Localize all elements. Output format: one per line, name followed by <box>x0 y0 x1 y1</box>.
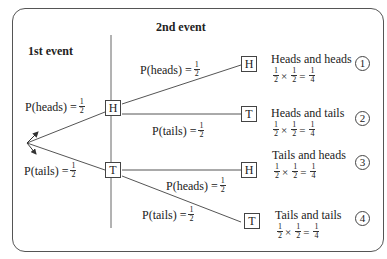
outcome-number-badge-2: 2 <box>355 111 370 126</box>
second-event-heading: 2nd event <box>156 20 206 35</box>
first-heads-probability: P(heads) = 12 <box>25 98 85 115</box>
branch-origin-heads <box>27 112 105 143</box>
second-heads-probability-1: P(heads) = 12 <box>140 61 200 78</box>
outcome-1: Heads and heads 12 × 12 = 14 <box>271 53 352 84</box>
outcome-calculation: 12 × 12 = 14 <box>271 121 344 138</box>
outcome-calculation: 12 × 12 = 14 <box>275 223 341 240</box>
outcome-calculation: 12 × 12 = 14 <box>271 67 352 84</box>
second-heads-probability-2: P(heads) = 12 <box>166 177 226 194</box>
first-node-tails: T <box>105 162 121 178</box>
outcome-number-badge-3: 3 <box>355 155 370 170</box>
outcome-2: Heads and tails 12 × 12 = 14 <box>271 107 344 138</box>
second-node-tails-1: T <box>241 106 257 122</box>
outcome-calculation: 12 × 12 = 14 <box>272 163 346 180</box>
second-node-heads-1: H <box>241 56 257 72</box>
first-tails-probability: P(tails) = 12 <box>24 162 76 179</box>
second-tails-probability-1: P(tails) = 12 <box>152 122 204 139</box>
second-node-heads-2: H <box>241 162 257 178</box>
fraction: 12 <box>79 98 85 115</box>
first-node-heads: H <box>105 100 121 116</box>
outcome-number-badge-1: 1 <box>355 56 370 71</box>
outcome-4: Tails and tails 12 × 12 = 14 <box>275 209 341 240</box>
outcome-3: Tails and heads 12 × 12 = 14 <box>272 149 346 180</box>
second-node-tails-2: T <box>244 213 260 229</box>
outcome-number-badge-4: 4 <box>355 211 370 226</box>
fraction: 12 <box>70 162 76 179</box>
second-tails-probability-2: P(tails) = 12 <box>142 206 194 223</box>
first-event-heading: 1st event <box>28 44 73 59</box>
